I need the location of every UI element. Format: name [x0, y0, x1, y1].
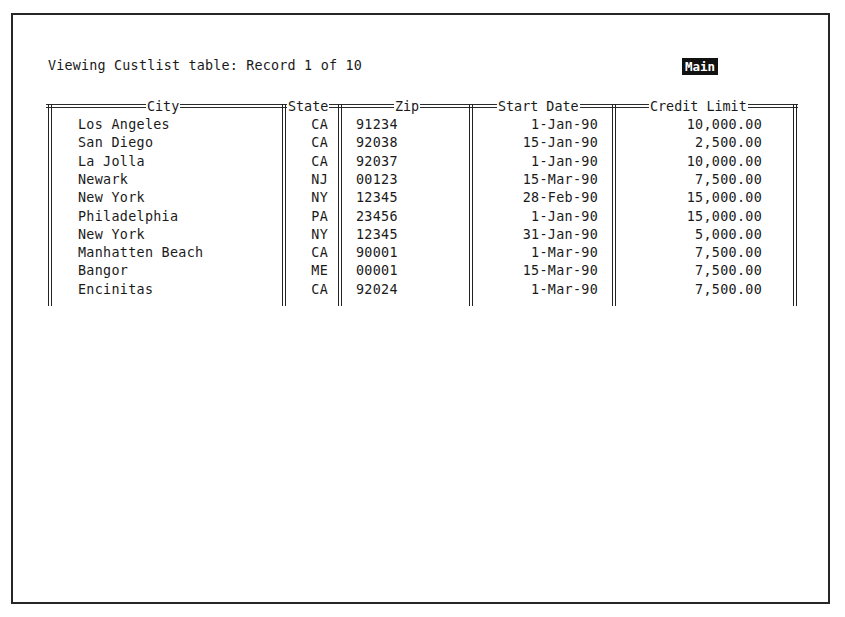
- table-row[interactable]: Philadelphia PA 23456 1-Jan-90 15,000.00: [0, 208, 845, 226]
- cell-city: New York: [78, 189, 145, 207]
- cell-city: La Jolla: [78, 153, 145, 171]
- table-row[interactable]: Encinitas CA 92024 1-Mar-90 7,500.00: [0, 281, 845, 299]
- table-row[interactable]: San Diego CA 92038 15-Jan-90 2,500.00: [0, 134, 845, 152]
- cell-zip: 12345: [356, 226, 398, 244]
- table-row[interactable]: La Jolla CA 92037 1-Jan-90 10,000.00: [0, 153, 845, 171]
- cell-credit-limit: 7,500.00: [620, 281, 762, 299]
- table-row[interactable]: Manhatten Beach CA 90001 1-Mar-90 7,500.…: [0, 244, 845, 262]
- cell-zip: 92038: [356, 134, 398, 152]
- cell-credit-limit: 7,500.00: [620, 171, 762, 189]
- cell-state: CA: [288, 153, 328, 171]
- cell-state: CA: [288, 244, 328, 262]
- table-row[interactable]: Los Angeles CA 91234 1-Jan-90 10,000.00: [0, 116, 845, 134]
- cell-city: Encinitas: [78, 281, 153, 299]
- cell-city: San Diego: [78, 134, 153, 152]
- cell-credit-limit: 5,000.00: [620, 226, 762, 244]
- cell-city: Bangor: [78, 262, 128, 280]
- cell-city: Manhatten Beach: [78, 244, 203, 262]
- table-row[interactable]: New York NY 12345 31-Jan-90 5,000.00: [0, 226, 845, 244]
- column-header-start-date[interactable]: Start Date: [497, 99, 580, 115]
- column-header-credit-limit[interactable]: Credit Limit: [649, 99, 748, 115]
- cell-city: Los Angeles: [78, 116, 170, 134]
- cell-state: CA: [288, 134, 328, 152]
- table-row[interactable]: Newark NJ 00123 15-Mar-90 7,500.00: [0, 171, 845, 189]
- cell-zip: 92037: [356, 153, 398, 171]
- cell-zip: 23456: [356, 208, 398, 226]
- cell-state: NY: [288, 189, 328, 207]
- cell-start-date: 15-Mar-90: [476, 171, 598, 189]
- cell-state: NJ: [288, 171, 328, 189]
- cell-zip: 92024: [356, 281, 398, 299]
- cell-start-date: 28-Feb-90: [476, 189, 598, 207]
- cell-state: ME: [288, 262, 328, 280]
- cell-start-date: 1-Mar-90: [476, 244, 598, 262]
- cell-zip: 90001: [356, 244, 398, 262]
- cell-zip: 12345: [356, 189, 398, 207]
- cell-zip: 00123: [356, 171, 398, 189]
- cell-zip: 91234: [356, 116, 398, 134]
- column-header-city[interactable]: City: [146, 99, 180, 115]
- column-header-state[interactable]: State: [287, 99, 329, 115]
- cell-start-date: 1-Jan-90: [476, 153, 598, 171]
- column-header-zip[interactable]: Zip: [394, 99, 420, 115]
- cell-city: New York: [78, 226, 145, 244]
- cell-city: Newark: [78, 171, 128, 189]
- cell-credit-limit: 10,000.00: [620, 153, 762, 171]
- cell-credit-limit: 15,000.00: [620, 189, 762, 207]
- table-row[interactable]: Bangor ME 00001 15-Mar-90 7,500.00: [0, 262, 845, 280]
- cell-credit-limit: 7,500.00: [620, 262, 762, 280]
- table-row[interactable]: New York NY 12345 28-Feb-90 15,000.00: [0, 189, 845, 207]
- cell-start-date: 31-Jan-90: [476, 226, 598, 244]
- cell-city: Philadelphia: [78, 208, 178, 226]
- cell-state: PA: [288, 208, 328, 226]
- cell-credit-limit: 10,000.00: [620, 116, 762, 134]
- cell-state: CA: [288, 116, 328, 134]
- cell-state: NY: [288, 226, 328, 244]
- cell-start-date: 1-Mar-90: [476, 281, 598, 299]
- cell-credit-limit: 7,500.00: [620, 244, 762, 262]
- cell-start-date: 1-Jan-90: [476, 116, 598, 134]
- cell-state: CA: [288, 281, 328, 299]
- custlist-table: City State Zip Start Date Credit Limit L…: [0, 0, 845, 617]
- cell-start-date: 15-Jan-90: [476, 134, 598, 152]
- cell-start-date: 1-Jan-90: [476, 208, 598, 226]
- cell-credit-limit: 15,000.00: [620, 208, 762, 226]
- cell-start-date: 15-Mar-90: [476, 262, 598, 280]
- cell-credit-limit: 2,500.00: [620, 134, 762, 152]
- cell-zip: 00001: [356, 262, 398, 280]
